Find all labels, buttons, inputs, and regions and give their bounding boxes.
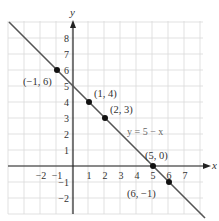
- y-tick-label: 5: [64, 81, 69, 92]
- x-tick-label: 3: [119, 170, 124, 181]
- y-tick-label: 3: [64, 113, 69, 124]
- y-tick-label: −1: [58, 177, 69, 188]
- y-tick-label: 6: [64, 65, 69, 76]
- y-axis-label: y: [69, 6, 75, 18]
- y-tick-label: −2: [58, 193, 69, 204]
- point-label: (6, −1): [127, 188, 156, 200]
- point-marker: [86, 99, 92, 105]
- x-axis-label: x: [211, 159, 217, 171]
- y-tick-label: 7: [64, 49, 69, 60]
- x-tick-label: 7: [183, 170, 188, 181]
- x-tick-label: −2: [36, 170, 47, 181]
- point-marker: [102, 115, 108, 121]
- point-marker: [150, 163, 156, 169]
- point-label: (2, 3): [110, 104, 133, 116]
- x-axis-arrow-icon: [203, 163, 211, 169]
- x-tick-label: 4: [135, 170, 140, 181]
- point-label: (−1, 6): [23, 76, 52, 88]
- x-tick-label: 5: [151, 170, 156, 181]
- y-tick-label: 2: [64, 129, 69, 140]
- y-tick-label: 8: [64, 33, 69, 44]
- point-marker: [54, 67, 60, 73]
- point-label: (1, 4): [94, 88, 117, 100]
- x-tick-label: 1: [87, 170, 92, 181]
- y-tick-label: 4: [64, 97, 69, 108]
- x-tick-label: 2: [103, 170, 108, 181]
- y-axis-arrow-icon: [70, 20, 76, 28]
- coordinate-plane: x y −2−11234567 87654321−1−2 y = 5 − x (…: [0, 0, 219, 221]
- y-tick-labels: 87654321−1−2: [58, 33, 69, 204]
- equation-label: y = 5 − x: [127, 126, 163, 137]
- point-marker: [166, 179, 172, 185]
- y-tick-label: 1: [64, 145, 69, 156]
- point-label: (5, 0): [145, 150, 168, 162]
